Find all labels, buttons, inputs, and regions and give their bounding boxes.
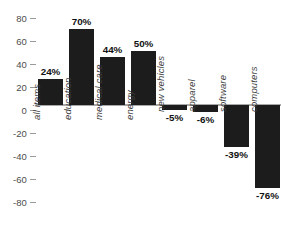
y-tick-label: -80 bbox=[13, 197, 27, 208]
y-tick-label: -40 bbox=[13, 151, 27, 162]
y-tick-label: 0 bbox=[22, 105, 27, 116]
bar-group: 70% education bbox=[69, 0, 94, 228]
bar-value-label: 24% bbox=[26, 66, 75, 77]
category-label: apparel bbox=[186, 79, 197, 112]
bar-value-label: 70% bbox=[57, 16, 106, 27]
bar-group: -76% computers bbox=[255, 0, 280, 228]
y-tick: -40 bbox=[13, 150, 36, 162]
y-tick: 60 bbox=[16, 35, 36, 47]
y-tick: -60 bbox=[13, 173, 36, 185]
y-tick: -80 bbox=[13, 196, 36, 208]
category-label: medical care bbox=[93, 64, 104, 120]
y-tick-label: 60 bbox=[16, 36, 27, 47]
y-tick: 80 bbox=[16, 12, 36, 24]
bar-value-label: 50% bbox=[119, 38, 168, 49]
y-tick-label: -20 bbox=[13, 128, 27, 139]
bar-group: 24% all items bbox=[38, 0, 63, 228]
bar-value-label: -6% bbox=[181, 114, 230, 125]
bar-chart: 80 60 40 20 0 -20 -40 -60 bbox=[0, 0, 281, 228]
y-tick-label: 20 bbox=[16, 82, 27, 93]
y-tick-label: 80 bbox=[16, 13, 27, 24]
category-label: software bbox=[217, 75, 228, 112]
category-label: education bbox=[62, 77, 73, 120]
category-label: computers bbox=[248, 66, 259, 112]
category-label: all items bbox=[31, 84, 42, 120]
bar-value-label: -39% bbox=[212, 149, 261, 160]
y-tick-label: -60 bbox=[13, 174, 27, 185]
bar-value-label: -76% bbox=[243, 190, 281, 201]
y-tick: -20 bbox=[13, 127, 36, 139]
bar-group: 44% medical care bbox=[100, 0, 125, 228]
bar-group: -6% apparel bbox=[193, 0, 218, 228]
plot-area: 24% all items 70% education 44% medical … bbox=[36, 0, 281, 228]
bar[interactable] bbox=[255, 105, 280, 188]
category-label: energy bbox=[124, 90, 135, 120]
category-label: new vehicles bbox=[155, 56, 166, 112]
